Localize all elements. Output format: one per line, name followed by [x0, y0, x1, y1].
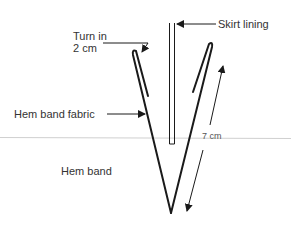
guide-line	[0, 138, 291, 139]
turn-in-label-line2: 2 cm	[73, 42, 107, 54]
hem-band-fabric-label: Hem band fabric	[14, 108, 95, 120]
hem-band-label: Hem band	[61, 165, 112, 177]
measurement-arrow-up	[210, 66, 223, 125]
turn-in-arrow	[103, 43, 148, 52]
skirt-lining-shape	[170, 23, 175, 144]
skirt-lining-label: Skirt lining	[218, 18, 269, 30]
turn-in-label: Turn in 2 cm	[73, 30, 107, 54]
measurement-arrow-down	[187, 150, 203, 211]
hem-band-fabric-shape	[133, 43, 212, 213]
turn-in-label-line1: Turn in	[73, 30, 107, 42]
measurement-label: 7 cm	[202, 130, 222, 142]
